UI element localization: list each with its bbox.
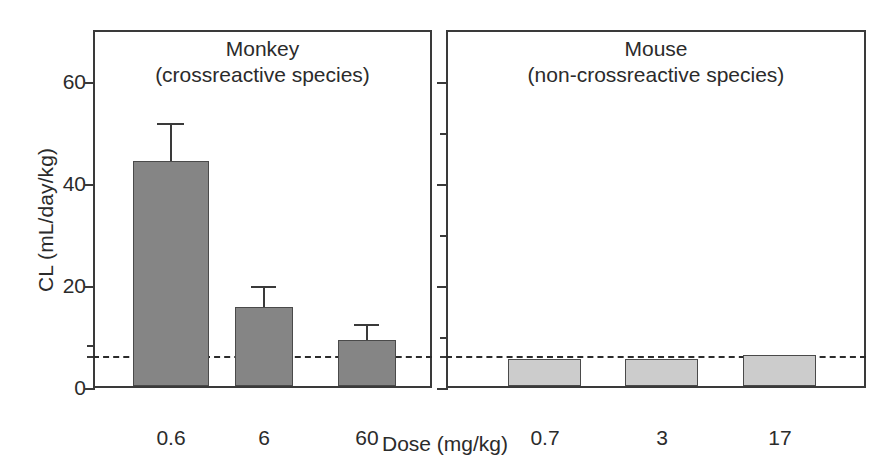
bar-monkey-6[interactable] [235, 307, 293, 386]
y-minor-tick-mouse-10 [440, 337, 448, 339]
x-axis-label: Dose (mg/kg) [0, 432, 890, 456]
errorbar-monkey-60 [366, 326, 368, 340]
bar-mouse-3[interactable] [625, 359, 698, 386]
y-major-tick-mouse-0 [437, 388, 448, 390]
panel-monkey-title: Monkey (crossreactive species) [95, 36, 430, 88]
panel-mouse-title-line2: (non-crossreactive species) [448, 62, 864, 88]
y-tick-label-40: 40 [63, 172, 86, 196]
errorbar-cap-monkey-6 [251, 286, 276, 288]
y-major-tick-0 [84, 388, 95, 390]
panel-mouse-title-line1: Mouse [624, 37, 687, 60]
y-major-tick-mouse-60 [437, 82, 448, 84]
y-major-tick-60 [84, 82, 95, 84]
bar-monkey-60[interactable] [338, 340, 396, 386]
y-major-tick-40 [84, 184, 95, 186]
bar-chart-figure: CL (mL/day/kg) 60 40 20 0 Monkey (crossr… [0, 0, 890, 475]
y-major-tick-20 [84, 286, 95, 288]
y-tick-label-60: 60 [63, 70, 86, 94]
errorbar-monkey-0.6 [170, 125, 172, 161]
panel-monkey: Monkey (crossreactive species) 0.6 6 60 [93, 30, 432, 388]
bar-monkey-0.6[interactable] [133, 161, 209, 386]
bar-mouse-0.7[interactable] [508, 359, 581, 386]
y-minor-tick-a [87, 345, 95, 347]
errorbar-cap-monkey-60 [354, 324, 379, 326]
y-tick-label-20: 20 [63, 274, 86, 298]
panel-mouse-title: Mouse (non-crossreactive species) [448, 36, 864, 88]
y-major-tick-mouse-20 [437, 286, 448, 288]
y-minor-tick-mouse-50 [440, 133, 448, 135]
bar-mouse-17[interactable] [743, 355, 816, 386]
y-axis-tick-labels: 60 40 20 0 [44, 0, 86, 475]
panel-monkey-title-line1: Monkey [226, 37, 300, 60]
errorbar-monkey-6 [263, 288, 265, 307]
y-major-tick-mouse-40 [437, 184, 448, 186]
panel-mouse: Mouse (non-crossreactive species) 0.7 3 … [446, 30, 866, 388]
errorbar-cap-monkey-0.6 [157, 123, 184, 125]
panel-monkey-title-line2: (crossreactive species) [95, 62, 430, 88]
y-minor-tick-mouse-30 [440, 235, 448, 237]
